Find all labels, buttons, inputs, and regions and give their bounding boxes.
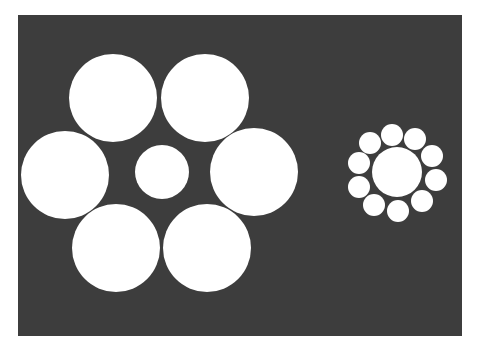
surround-circle [21, 131, 109, 219]
surround-circle [387, 200, 409, 222]
center-circle [372, 147, 422, 197]
surround-circle [381, 124, 403, 146]
surround-circle [404, 128, 426, 150]
center-circle [135, 145, 189, 199]
surround-circle [411, 190, 433, 212]
surround-circle [210, 128, 298, 216]
surround-circle [421, 145, 443, 167]
surround-circle [348, 176, 370, 198]
surround-circle [363, 194, 385, 216]
surround-circle [72, 204, 160, 292]
surround-circle [161, 54, 249, 142]
ebbinghaus-figure [0, 0, 478, 353]
surround-circle [359, 132, 381, 154]
surround-circle [348, 152, 370, 174]
surround-circle [69, 54, 157, 142]
surround-circle [425, 169, 447, 191]
surround-circle [163, 204, 251, 292]
